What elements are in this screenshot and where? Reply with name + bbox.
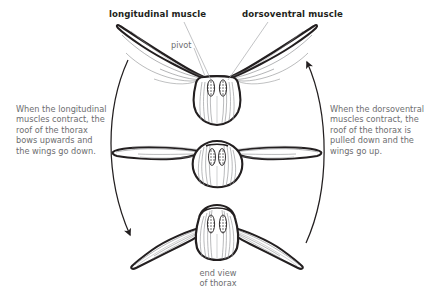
wing-bottom-right	[229, 227, 303, 269]
caption-dorsoventral-contraction: When the dorsoventral muscles contract, …	[330, 104, 434, 156]
wing-top-left	[117, 25, 204, 84]
caption-longitudinal-contraction: When the longitudinal muscles contract, …	[16, 104, 120, 156]
label-dorsoventral-muscle: dorsoventral muscle	[242, 9, 343, 19]
thorax-middle	[193, 141, 243, 187]
wing-top-right	[230, 25, 317, 84]
thorax-bottom	[196, 205, 238, 260]
figure-bottom-wings-down	[131, 205, 303, 269]
wing-middle-left	[113, 146, 200, 159]
thorax-top	[193, 76, 240, 125]
wing-bottom-left	[131, 227, 205, 269]
label-longitudinal-muscle: longitudinal muscle	[109, 9, 206, 19]
label-pivot: pivot	[171, 40, 192, 50]
label-end-view-of-thorax: end view of thorax	[178, 268, 258, 289]
wing-middle-right	[234, 146, 321, 159]
leader-line-pivot	[194, 48, 205, 76]
figure-middle-wings-horizontal	[113, 141, 322, 187]
figure-top-wings-up	[117, 25, 317, 125]
diagram-canvas: longitudinal muscle dorsoventral muscle …	[0, 0, 434, 302]
